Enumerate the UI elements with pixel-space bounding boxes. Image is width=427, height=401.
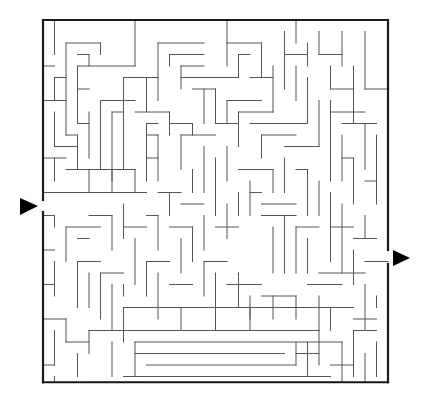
maze-board <box>0 0 427 401</box>
exit-arrow-icon <box>393 250 410 266</box>
entry-arrow-icon <box>20 198 38 215</box>
maze-walls <box>43 20 388 382</box>
